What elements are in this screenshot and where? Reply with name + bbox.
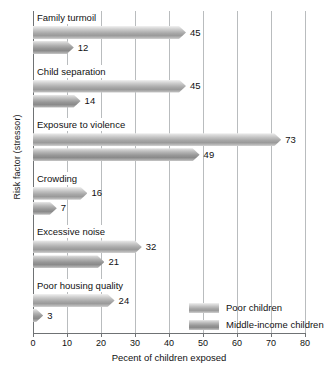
bar[interactable] — [33, 255, 104, 268]
legend-swatch-middle-income-children — [189, 320, 219, 330]
legend-swatch-poor-children — [189, 303, 219, 313]
gridline-80 — [305, 11, 306, 333]
bar[interactable] — [33, 95, 81, 108]
bar-group: Crowding167 — [33, 172, 305, 226]
x-tick-label-60: 60 — [232, 338, 242, 348]
category-label: Crowding — [36, 172, 79, 185]
bar-group: Child separation4514 — [33, 65, 305, 119]
bar-value-label: 21 — [108, 255, 119, 268]
bar[interactable] — [33, 240, 142, 253]
bar-value-label: 14 — [85, 94, 96, 107]
y-axis-title: Risk factor (stressor) — [12, 82, 22, 232]
x-tick-mark-10 — [67, 333, 68, 337]
bar-value-label: 32 — [146, 240, 157, 253]
category-label: Poor housing quality — [36, 279, 125, 292]
bar-value-label: 49 — [204, 148, 215, 161]
x-tick-mark-30 — [135, 333, 136, 337]
bar[interactable] — [33, 80, 186, 93]
bar[interactable] — [33, 41, 74, 54]
x-tick-label-10: 10 — [62, 338, 72, 348]
category-label: Child separation — [36, 65, 108, 78]
bar-group: Family turmoil4512 — [33, 11, 305, 65]
plot-area: Family turmoil4512Child separation4514Ex… — [33, 11, 305, 333]
bar-groups: Family turmoil4512Child separation4514Ex… — [33, 11, 305, 333]
category-label: Family turmoil — [36, 11, 98, 24]
x-tick-label-70: 70 — [266, 338, 276, 348]
bar-group: Excessive noise3221 — [33, 225, 305, 279]
legend: Poor children Middle-income children — [189, 300, 324, 334]
category-label: Excessive noise — [36, 225, 107, 238]
bar[interactable] — [33, 26, 186, 39]
bar[interactable] — [33, 187, 87, 200]
x-tick-label-80: 80 — [300, 338, 310, 348]
x-tick-label-0: 0 — [30, 338, 35, 348]
bar[interactable] — [33, 309, 43, 322]
bar[interactable] — [33, 148, 200, 161]
bar[interactable] — [33, 294, 115, 307]
bar-value-label: 7 — [61, 201, 66, 214]
bar-value-label: 24 — [119, 294, 130, 307]
x-tick-mark-0 — [33, 333, 34, 337]
x-axis-title: Pecent of children exposed — [33, 352, 305, 363]
bar-value-label: 73 — [285, 133, 296, 146]
legend-item-middle-income-children: Middle-income children — [189, 317, 324, 332]
bar-value-label: 3 — [47, 309, 52, 322]
x-tick-label-30: 30 — [130, 338, 140, 348]
legend-item-poor-children: Poor children — [189, 300, 324, 315]
category-label: Exposure to violence — [36, 118, 127, 131]
x-tick-label-40: 40 — [164, 338, 174, 348]
x-tick-mark-40 — [169, 333, 170, 337]
x-tick-label-20: 20 — [96, 338, 106, 348]
bar-value-label: 16 — [91, 186, 102, 199]
bar[interactable] — [33, 202, 57, 215]
bar-value-label: 45 — [190, 79, 201, 92]
x-tick-mark-20 — [101, 333, 102, 337]
x-axis-ticks: 01020304050607080 — [33, 333, 305, 349]
bar-group: Exposure to violence7349 — [33, 118, 305, 172]
legend-label-middle-income-children: Middle-income children — [226, 319, 324, 330]
legend-label-poor-children: Poor children — [226, 302, 282, 313]
bar-value-label: 45 — [190, 26, 201, 39]
bar-value-label: 12 — [78, 41, 89, 54]
bar[interactable] — [33, 133, 281, 146]
x-tick-label-50: 50 — [198, 338, 208, 348]
